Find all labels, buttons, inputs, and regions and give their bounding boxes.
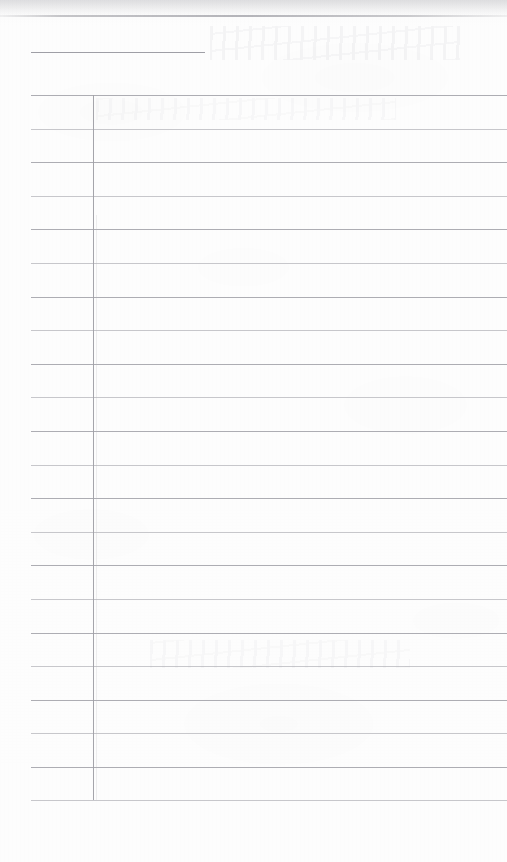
row-label-cell[interactable] bbox=[35, 644, 89, 654]
row-label-cell[interactable] bbox=[35, 779, 89, 789]
row-entry-cell[interactable] bbox=[98, 376, 502, 386]
row-entry-cell[interactable] bbox=[98, 308, 502, 318]
table-rule-vertical-divider-ghost bbox=[96, 215, 97, 800]
table-rule-horizontal bbox=[31, 229, 507, 230]
row-entry-cell[interactable] bbox=[98, 409, 502, 419]
row-label-cell[interactable] bbox=[35, 544, 89, 554]
row-entry-cell[interactable] bbox=[98, 476, 502, 486]
table-rule-horizontal bbox=[31, 498, 507, 499]
table-rule-horizontal bbox=[31, 431, 507, 432]
row-label-cell[interactable] bbox=[35, 376, 89, 386]
table-rule-horizontal bbox=[31, 565, 507, 566]
row-entry-cell[interactable] bbox=[98, 510, 502, 520]
row-entry-cell[interactable] bbox=[98, 577, 502, 587]
table-rule-horizontal bbox=[31, 633, 507, 634]
row-entry-cell[interactable] bbox=[98, 140, 502, 150]
table-rule-horizontal bbox=[31, 800, 507, 801]
table-rule-horizontal bbox=[31, 95, 507, 96]
row-entry-cell[interactable] bbox=[98, 611, 502, 621]
row-entry-cell[interactable] bbox=[98, 745, 502, 755]
table-rule-horizontal bbox=[31, 532, 507, 533]
scan-top-edge-line bbox=[0, 15, 507, 17]
scanned-page bbox=[0, 0, 507, 862]
row-entry-cell[interactable] bbox=[98, 241, 502, 251]
row-label-cell[interactable] bbox=[35, 174, 89, 184]
row-label-cell[interactable] bbox=[35, 409, 89, 419]
row-label-cell[interactable] bbox=[35, 476, 89, 486]
row-label-cell[interactable] bbox=[35, 140, 89, 150]
row-entry-cell[interactable] bbox=[98, 342, 502, 352]
row-label-cell[interactable] bbox=[35, 712, 89, 722]
table-rule-horizontal bbox=[31, 162, 507, 163]
table-rule-horizontal bbox=[31, 129, 507, 130]
table-rule-horizontal bbox=[31, 666, 507, 667]
row-label-cell[interactable] bbox=[35, 308, 89, 318]
header-rule bbox=[31, 52, 205, 53]
table-rule-horizontal bbox=[31, 263, 507, 264]
table-rule-horizontal bbox=[31, 465, 507, 466]
row-label-cell[interactable] bbox=[35, 745, 89, 755]
row-entry-cell[interactable] bbox=[98, 678, 502, 688]
row-label-cell[interactable] bbox=[35, 208, 89, 218]
row-entry-cell[interactable] bbox=[98, 208, 502, 218]
row-entry-cell[interactable] bbox=[98, 107, 502, 117]
row-label-cell[interactable] bbox=[35, 577, 89, 587]
row-label-cell[interactable] bbox=[35, 510, 89, 520]
table-rule-horizontal bbox=[31, 397, 507, 398]
row-entry-cell[interactable] bbox=[98, 174, 502, 184]
table-rule-horizontal bbox=[31, 330, 507, 331]
row-label-cell[interactable] bbox=[35, 241, 89, 251]
table-rule-horizontal bbox=[31, 733, 507, 734]
row-entry-cell[interactable] bbox=[98, 779, 502, 789]
table-rule-horizontal bbox=[31, 767, 507, 768]
table-rule-horizontal bbox=[31, 599, 507, 600]
table-rule-horizontal bbox=[31, 297, 507, 298]
row-label-cell[interactable] bbox=[35, 275, 89, 285]
table-rule-horizontal bbox=[31, 700, 507, 701]
table-rule-horizontal bbox=[31, 196, 507, 197]
table-rule-horizontal bbox=[31, 364, 507, 365]
row-entry-cell[interactable] bbox=[98, 544, 502, 554]
row-label-cell[interactable] bbox=[35, 443, 89, 453]
row-entry-cell[interactable] bbox=[98, 712, 502, 722]
row-label-cell[interactable] bbox=[35, 611, 89, 621]
row-label-cell[interactable] bbox=[35, 107, 89, 117]
row-entry-cell[interactable] bbox=[98, 443, 502, 453]
row-label-cell[interactable] bbox=[35, 678, 89, 688]
table-rule-vertical-divider bbox=[93, 95, 94, 800]
row-entry-cell[interactable] bbox=[98, 644, 502, 654]
row-label-cell[interactable] bbox=[35, 342, 89, 352]
row-entry-cell[interactable] bbox=[98, 275, 502, 285]
